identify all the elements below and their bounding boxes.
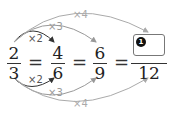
answer-box[interactable]: 1	[133, 34, 165, 56]
fraction-4-denominator: 12	[134, 64, 164, 82]
equals-sign: =	[28, 54, 43, 72]
label-bottom-x3: ×3	[48, 88, 63, 98]
label-top-x4: ×4	[73, 10, 88, 20]
fraction-1-denominator: 3	[2, 64, 26, 82]
fraction-1-numerator: 2	[2, 44, 26, 62]
label-top-x3: ×3	[48, 22, 63, 32]
fraction-3-denominator: 9	[88, 64, 112, 82]
label-top-x2: ×2	[28, 34, 43, 44]
equals-sign: =	[114, 54, 129, 72]
fraction-2-denominator: 6	[46, 64, 70, 82]
label-bottom-x2: ×2	[28, 75, 43, 85]
fraction-3-numerator: 6	[88, 44, 112, 62]
equivalent-fractions-diagram: ×2 ×3 ×4 ×2 ×3 ×4 2 3 = 4 6 = 6 9 = 1 12	[0, 0, 177, 120]
fraction-2-numerator: 4	[46, 44, 70, 62]
label-bottom-x4: ×4	[73, 99, 88, 109]
equals-sign: =	[72, 54, 87, 72]
question-number-badge: 1	[136, 37, 146, 47]
